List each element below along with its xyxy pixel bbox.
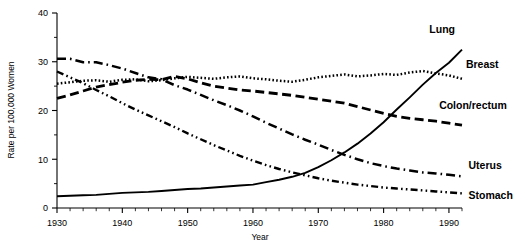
x-tick-label: 1960 — [243, 218, 263, 228]
series-label-uterus: Uterus — [469, 159, 502, 171]
y-axis-tick-labels: 010203040 — [38, 8, 48, 213]
series-label-breast: Breast — [466, 58, 499, 70]
y-axis-title: Rate per 100,000 Women — [6, 61, 16, 158]
x-tick-label: 1980 — [374, 218, 394, 228]
x-axis-title: Year — [251, 232, 268, 242]
series-line-stomach — [57, 72, 462, 194]
x-axis-major-ticks — [57, 208, 449, 213]
series-label-colon-rectum: Colon/rectum — [439, 99, 507, 111]
x-tick-label: 1970 — [308, 218, 328, 228]
y-tick-label: 40 — [38, 8, 48, 18]
data-series-lines — [57, 50, 462, 197]
y-tick-label: 0 — [43, 203, 48, 213]
series-line-colon-rectum — [57, 76, 462, 125]
chart-figure: 010203040 Rate per 100,000 Women 1930194… — [0, 0, 528, 251]
y-tick-label: 10 — [38, 155, 48, 165]
y-tick-label: 30 — [38, 57, 48, 67]
series-label-stomach: Stomach — [469, 189, 513, 201]
x-axis-tick-labels: 1930194019501960197019801990 — [47, 218, 459, 228]
x-tick-label: 1990 — [439, 218, 459, 228]
x-tick-label: 1930 — [47, 218, 67, 228]
y-axis-major-ticks — [52, 13, 57, 208]
x-axis: 1930194019501960197019801990 Year — [47, 208, 462, 242]
x-tick-label: 1940 — [112, 218, 132, 228]
y-axis: 010203040 Rate per 100,000 Women — [6, 8, 57, 213]
x-tick-label: 1950 — [178, 218, 198, 228]
y-tick-label: 20 — [38, 106, 48, 116]
cancer-death-rate-line-chart: 010203040 Rate per 100,000 Women 1930194… — [0, 0, 528, 251]
series-label-lung: Lung — [429, 23, 455, 35]
series-line-lung — [57, 50, 462, 197]
